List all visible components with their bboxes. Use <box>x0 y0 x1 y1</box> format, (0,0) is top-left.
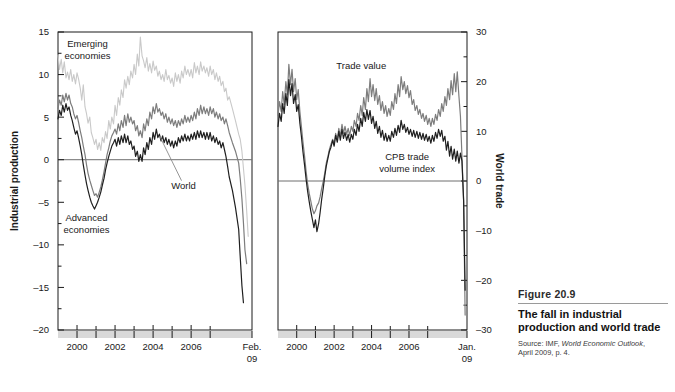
x-end-label-line1: Jan. <box>458 341 476 352</box>
annotation-label: Trade value <box>336 60 386 71</box>
annotation-label: Emerging <box>67 38 108 49</box>
caption-divider <box>518 303 668 304</box>
y-axis-title: World trade <box>494 153 505 209</box>
figure-title-line2: production and world trade <box>518 321 660 333</box>
series-line-advanced-economies <box>58 104 243 303</box>
y-tick-label: –10 <box>33 239 49 250</box>
x-end-label-line1: Feb. <box>242 341 261 352</box>
x-tick-label: 2000 <box>66 341 87 352</box>
series-line-cpb-trade-volume-index <box>278 80 465 291</box>
source-prefix: Source: IMF, <box>518 339 562 348</box>
y-tick-label: –5 <box>38 197 49 208</box>
series-line-trade-value <box>278 64 465 315</box>
x-tick-label: 2002 <box>324 341 345 352</box>
y-tick-label: 0 <box>44 154 49 165</box>
plot-frame <box>58 32 252 330</box>
annotation-label-line2: economies <box>65 50 111 61</box>
y-tick-label: –15 <box>33 282 49 293</box>
figure-caption: Figure 20.9 The fall in industrial produ… <box>518 288 668 358</box>
source-line2: April 2009, p. 4. <box>518 348 570 357</box>
annotation-label: Advanced <box>65 212 107 223</box>
x-tick-label: 2004 <box>143 341 164 352</box>
y-tick-label: –20 <box>476 275 492 286</box>
x-axis-band <box>278 331 467 338</box>
series-line-world <box>58 93 247 263</box>
x-tick-label: 2004 <box>361 341 382 352</box>
x-axis-band <box>58 331 252 338</box>
chart-industrial-production: 151050–5–10–15–202000200220042006Feb.09E… <box>9 26 262 364</box>
y-tick-label: –20 <box>33 324 49 335</box>
y-tick-label: –30 <box>476 324 492 335</box>
figure-title: The fall in industrial production and wo… <box>518 308 668 334</box>
x-end-label-line2: 09 <box>462 353 473 364</box>
y-axis-title: Industrial production <box>9 131 20 231</box>
y-tick-label: 30 <box>476 26 487 37</box>
figure-title-line1: The fall in industrial <box>518 308 622 320</box>
figure-source: Source: IMF, World Economic Outlook, Apr… <box>518 339 668 358</box>
chart-world-trade: 3020100–10–20–302000200220042006Jan.09Tr… <box>278 26 505 364</box>
x-tick-label: 2000 <box>286 341 307 352</box>
annotation-leader-line <box>160 136 182 180</box>
annotation-label-line2: economies <box>64 224 110 235</box>
figure-number: Figure 20.9 <box>518 288 668 302</box>
y-tick-label: 5 <box>44 112 49 123</box>
y-tick-label: 10 <box>38 69 49 80</box>
y-tick-label: 0 <box>476 175 481 186</box>
source-publication: World Economic Outlook <box>562 339 643 348</box>
source-suffix: , <box>643 339 645 348</box>
x-tick-label: 2006 <box>398 341 419 352</box>
annotation-label: World <box>171 180 196 191</box>
y-tick-label: 15 <box>38 26 49 37</box>
x-tick-label: 2006 <box>181 341 202 352</box>
y-tick-label: 10 <box>476 126 487 137</box>
x-tick-label: 2002 <box>104 341 125 352</box>
annotation-label: CPB trade <box>385 151 429 162</box>
y-tick-label: –10 <box>476 225 492 236</box>
x-end-label-line2: 09 <box>247 353 258 364</box>
annotation-label-line2: volume index <box>379 163 435 174</box>
y-tick-label: 20 <box>476 76 487 87</box>
